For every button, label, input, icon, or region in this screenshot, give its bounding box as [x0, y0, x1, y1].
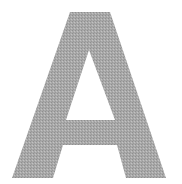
letter-a-icon — [0, 0, 182, 184]
letter-a-graphic: A — [0, 0, 182, 184]
letter-a-shape — [12, 12, 166, 178]
